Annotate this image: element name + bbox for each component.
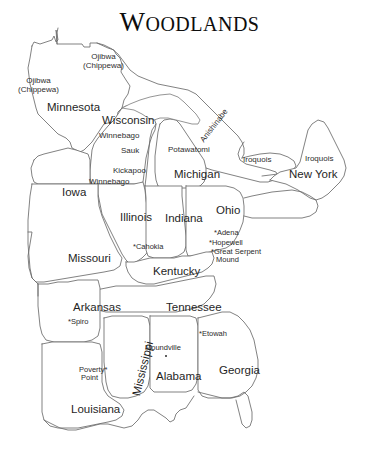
state-label-kentucky: Kentucky [153,265,200,277]
map-outline-graphic [0,0,379,457]
site-label-spiro: *Spiro [68,318,88,326]
state-shape-georgia [198,312,258,398]
state-shape-iowa [31,148,90,184]
site-label-poverty-point-line2: Point [81,374,98,382]
state-label-michigan: Michigan [174,168,220,180]
state-label-new-york: New York [289,168,338,180]
site-label-cahokia: *Cahokia [133,243,163,251]
site-label-moundville: Moundville [145,344,181,352]
tribe-label-winnebago-south: Winnebago [89,178,129,187]
state-label-minnesota: Minnesota [47,101,100,113]
tribe-alt-name: (Chippewa) [18,85,59,94]
state-label-missouri: Missouri [68,252,111,264]
tribe-alt-name: (Chippewa) [83,61,124,70]
site-label-etowah: *Etowah [199,330,227,338]
state-label-arkansas: Arkansas [73,301,121,313]
tribe-label-kickapoo: Kickapoo [113,167,146,176]
state-label-iowa: Iowa [62,186,86,198]
state-label-louisiana: Louisiana [71,403,120,415]
state-label-indiana: Indiana [165,212,203,224]
tribe-label-ojibwa-west: Ojibwa (Chippewa) [18,76,59,94]
tribe-label-winnebago-north: Winnebago [99,132,139,141]
site-label-adena: *Adena [214,229,239,237]
site-label-hopewell: *Hopewell [209,239,243,247]
state-label-georgia: Georgia [219,364,260,376]
tribe-label-sauk: Sauk [121,147,139,156]
tribe-label-potawatomi: Potawatomi [168,146,210,155]
site-label-great-serpent-mound-line2: Mound [216,256,239,264]
state-label-illinois: Illinois [120,211,152,223]
tribe-name: Ojibwa [18,76,59,85]
state-label-tennessee: Tennessee [166,301,222,313]
state-label-ohio: Ohio [216,204,240,216]
tribe-label-iroquois-east: Iroquois [305,155,333,164]
woodlands-map-page: WOODLANDS [0,0,379,457]
state-label-alabama: Alabama [156,370,201,382]
tribe-label-ojibwa-north: Ojibwa (Chippewa) [83,52,124,70]
state-label-wisconsin: Wisconsin [102,114,154,126]
site-marker-moundville-dot [165,355,167,357]
tribe-label-iroquois-west: Iroquois [243,156,271,165]
pennsylvania-outline [244,190,318,218]
tribe-name: Ojibwa [83,52,124,61]
